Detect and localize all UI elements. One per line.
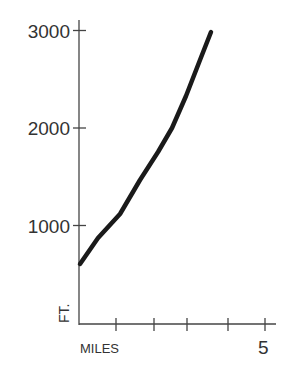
y-tick-label-2000: 2000 [10, 119, 70, 138]
y-tick-label-1000: 1000 [10, 217, 70, 236]
elevation-chart: 3000 2000 1000 FT. MILES 5 [0, 0, 293, 384]
x-tick-label-5: 5 [258, 338, 269, 357]
elevation-line [80, 32, 211, 264]
x-axis-label: MILES [80, 342, 119, 355]
y-tick-label-3000: 3000 [10, 22, 70, 41]
plot-area [0, 0, 293, 384]
y-axis-label: FT. [57, 304, 71, 323]
